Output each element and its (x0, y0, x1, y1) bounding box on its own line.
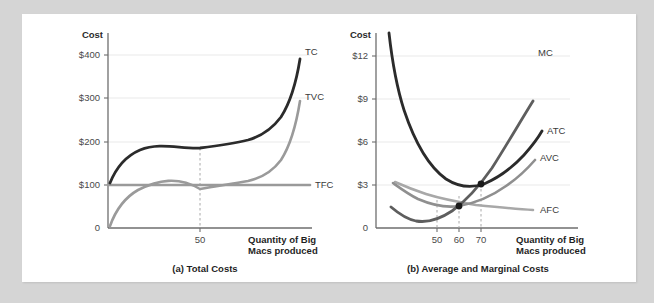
curve-tvc (110, 101, 300, 226)
panel-a-total-costs: Cost $400 $300 $200 $100 0 50 TC TVC TFC… (79, 29, 334, 274)
panel-a-caption: (a) Total Costs (172, 263, 237, 274)
panel-b-average-marginal-costs: Cost $12 $9 $6 $3 0 50 60 70 MC ATC AVC … (350, 29, 586, 274)
panel-b-label-mc: MC (538, 47, 553, 58)
panel-b-label-avc: AVC (540, 152, 559, 163)
panel-b-ytick-12: $12 (352, 50, 368, 61)
panel-a-ytick-300: $300 (79, 92, 100, 103)
panel-a-label-tc: TC (305, 46, 318, 57)
curve-tc (110, 59, 300, 183)
panel-b-ytick-0: 0 (363, 222, 368, 233)
cost-curves-figure: Cost $400 $300 $200 $100 0 50 TC TVC TFC… (0, 0, 654, 303)
panel-b-xaxis-title-line2: Macs produced (516, 245, 586, 256)
panel-a-xaxis-title-line1: Quantity of Big (248, 234, 316, 245)
panel-b-gridlines (376, 56, 570, 185)
panel-b-label-atc: ATC (547, 125, 565, 136)
marker-mc-avc-minimum (456, 203, 463, 210)
panel-a-ytick-200: $200 (79, 136, 100, 147)
panel-b-xaxis-title-line1: Quantity of Big (516, 234, 584, 245)
panel-a-y-axis-label: Cost (82, 29, 104, 40)
panel-a-ytick-0: 0 (95, 222, 100, 233)
panel-b-label-afc: AFC (540, 204, 559, 215)
panel-b-xtick-50: 50 (432, 234, 443, 245)
curve-mc (391, 101, 533, 222)
panel-b-caption: (b) Average and Marginal Costs (407, 263, 549, 274)
panel-a-label-tfc: TFC (315, 179, 334, 190)
panel-b-ytick-9: $9 (357, 93, 368, 104)
panel-b-y-axis-label: Cost (350, 29, 372, 40)
panel-a-xaxis-title-line2: Macs produced (248, 245, 318, 256)
panel-b-ytick-3: $3 (357, 179, 368, 190)
panel-a-xtick-50: 50 (195, 234, 206, 245)
panel-b-xtick-70: 70 (476, 234, 487, 245)
panel-a-ytick-100: $100 (79, 179, 100, 190)
figure-root: Cost $400 $300 $200 $100 0 50 TC TVC TFC… (0, 0, 654, 303)
panel-a-ytick-400: $400 (79, 49, 100, 60)
panel-b-ytick-6: $6 (357, 136, 368, 147)
marker-mc-atc-minimum (478, 181, 485, 188)
panel-b-xtick-60: 60 (454, 234, 465, 245)
panel-a-label-tvc: TVC (305, 91, 324, 102)
